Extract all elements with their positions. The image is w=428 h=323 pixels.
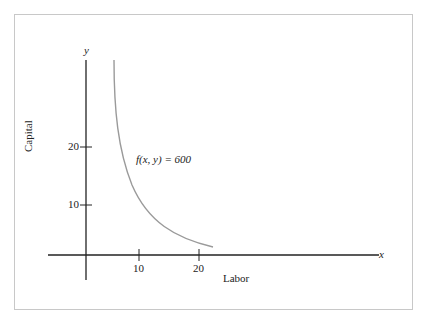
chart-plot — [0, 0, 428, 323]
y-axis-var: y — [84, 44, 89, 56]
x-tick-label-10: 10 — [133, 262, 144, 274]
y-tick-label-20: 20 — [68, 140, 79, 152]
curve-annotation: f(x, y) = 600 — [136, 153, 191, 165]
x-axis-label: Labor — [223, 272, 249, 284]
y-axis-label: Capital — [22, 120, 34, 152]
x-axis-var: x — [379, 248, 384, 260]
y-tick-label-10: 10 — [68, 198, 79, 210]
x-tick-label-20: 20 — [193, 262, 204, 274]
